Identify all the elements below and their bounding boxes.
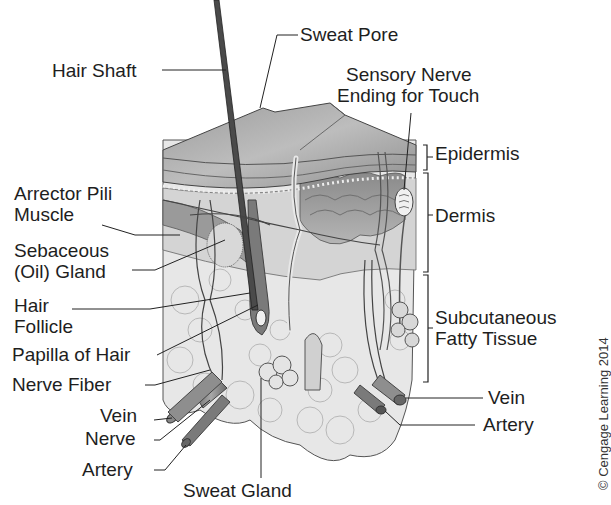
label-nerve-left: Nerve bbox=[85, 428, 136, 449]
label-subcutaneous-line1: Subcutaneous bbox=[435, 307, 557, 328]
label-vein-right: Vein bbox=[488, 387, 525, 408]
label-arrector-pili-line1: Arrector Pili bbox=[14, 183, 112, 204]
label-vein-left: Vein bbox=[100, 405, 137, 426]
label-sweat-pore: Sweat Pore bbox=[300, 24, 398, 45]
label-subcutaneous-line2: Fatty Tissue bbox=[435, 328, 537, 349]
layer-brackets bbox=[423, 145, 433, 382]
label-sensory-nerve-line2: Ending for Touch bbox=[337, 85, 479, 106]
label-papilla-of-hair: Papilla of Hair bbox=[12, 344, 130, 365]
label-hair-follicle-line1: Hair bbox=[14, 295, 49, 316]
label-sebaceous-line1: Sebaceous bbox=[14, 240, 109, 261]
label-artery-left: Artery bbox=[82, 459, 133, 480]
label-arrector-pili-line2: Muscle bbox=[14, 204, 74, 225]
label-nerve-fiber: Nerve Fiber bbox=[12, 374, 111, 395]
copyright-notice: © Cengage Learning 2014 bbox=[596, 337, 611, 490]
label-sebaceous-line2: (Oil) Gland bbox=[14, 261, 106, 282]
label-epidermis: Epidermis bbox=[435, 143, 519, 164]
epidermis-layer bbox=[163, 103, 416, 193]
label-sweat-gland: Sweat Gland bbox=[183, 480, 292, 501]
label-artery-right: Artery bbox=[483, 414, 534, 435]
label-sensory-nerve-line1: Sensory Nerve bbox=[346, 64, 472, 85]
hair-papilla bbox=[256, 310, 266, 326]
label-hair-follicle-line2: Follicle bbox=[14, 316, 73, 337]
label-hair-shaft: Hair Shaft bbox=[52, 60, 136, 81]
label-dermis: Dermis bbox=[435, 205, 495, 226]
